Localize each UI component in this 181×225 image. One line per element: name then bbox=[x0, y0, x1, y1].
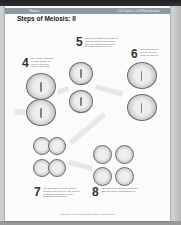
chromosome bbox=[141, 71, 142, 81]
cell-diagram-6a bbox=[127, 62, 157, 89]
arrow-into-4 bbox=[15, 109, 25, 115]
chromosome bbox=[40, 82, 43, 92]
step-6-text: The chromosomes then line up in the midd… bbox=[140, 48, 162, 59]
step-6-number: 6 bbox=[131, 48, 138, 60]
step-5-number: 5 bbox=[76, 36, 83, 48]
cell-diagram-4a bbox=[26, 73, 56, 100]
cell-diagram-7b-right bbox=[48, 159, 66, 177]
header-left-label: Meiosis bbox=[29, 8, 39, 14]
step-7-number: 7 bbox=[34, 186, 41, 198]
cell-diagram-5b bbox=[69, 90, 93, 113]
header-band: Meiosis Cell Cycles / Cell Reproduction bbox=[5, 8, 170, 14]
step-8-number: 8 bbox=[92, 186, 99, 198]
cell-diagram-7a-right bbox=[48, 137, 66, 155]
page-bottom-edge bbox=[0, 221, 181, 225]
step-7-text: The chromatids are pulled apart to oppos… bbox=[43, 187, 81, 199]
page-right-edge bbox=[170, 6, 181, 225]
copyright-footer: Copyright © by Holt, Rinehart and Winsto… bbox=[60, 213, 115, 215]
chromosome bbox=[80, 97, 82, 105]
cell-diagram-4b bbox=[26, 99, 56, 126]
step-4-number: 4 bbox=[22, 57, 29, 69]
cell-diagram-8c bbox=[93, 167, 112, 186]
cell-diagram-8b bbox=[115, 145, 134, 164]
document-page: Meiosis Cell Cycles / Cell Reproduction … bbox=[5, 6, 170, 221]
header-right-label: Cell Cycles / Cell Reproduction bbox=[118, 8, 159, 14]
step-4-text: The nuclear membrane re-forms and the ce… bbox=[31, 57, 55, 70]
chromosome bbox=[80, 69, 82, 77]
cell-diagram-6b bbox=[127, 94, 157, 121]
arrow-4-to-5 bbox=[57, 86, 70, 95]
cell-diagram-8a bbox=[93, 145, 112, 164]
arrow-5-to-6 bbox=[95, 84, 123, 96]
page-title: Steps of Meiosis: II bbox=[17, 15, 76, 22]
arrow-7-to-8 bbox=[68, 160, 93, 171]
chromosome bbox=[141, 103, 142, 113]
step-5-text: Each cell contains one member of each ho… bbox=[85, 37, 118, 49]
chromosome bbox=[40, 108, 43, 118]
step-8-text: The result is four haploid cells that ar… bbox=[101, 187, 139, 199]
cell-diagram-8d bbox=[115, 167, 134, 186]
cell-diagram-5a bbox=[69, 62, 93, 85]
arrow-6-to-7 bbox=[69, 112, 107, 145]
